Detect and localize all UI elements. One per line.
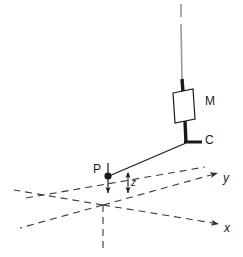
point-P-group	[104, 163, 111, 193]
clamp-label: C	[205, 134, 214, 146]
diagram-canvas	[0, 0, 243, 257]
height-dimension-label: z	[131, 178, 136, 188]
mass-block-icon	[173, 89, 195, 123]
clamp-arm-group	[184, 121, 202, 143]
coordinate-axes-group	[14, 167, 219, 253]
wire-attachment-segment	[182, 79, 183, 92]
axis-y-line	[103, 173, 218, 205]
axis-x-line	[103, 205, 219, 224]
suspension-wire-group	[181, 4, 183, 92]
physics-diagram: M C P y x z	[0, 0, 243, 257]
wire-main	[181, 24, 182, 79]
point-label: P	[93, 163, 101, 175]
clamp-vertical-segment	[185, 121, 186, 143]
dashed-line-through-P	[26, 167, 205, 198]
axis-x-label: x	[224, 222, 230, 234]
mass-label: M	[205, 95, 215, 107]
axis-y-label: y	[223, 172, 229, 184]
mass-block-group	[173, 89, 195, 123]
rod-C-to-P	[109, 143, 186, 176]
axis-y-negative-line	[20, 205, 103, 228]
filled-dot-icon	[104, 172, 111, 179]
